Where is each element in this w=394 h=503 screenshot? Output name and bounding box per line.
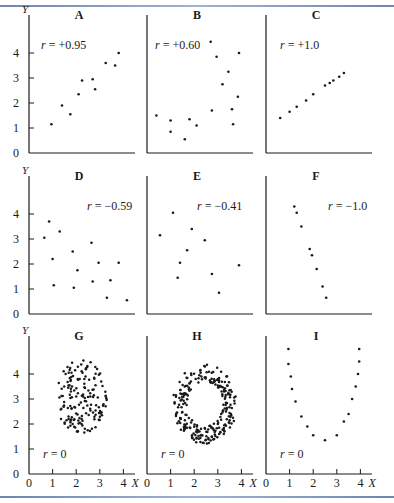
data-point	[67, 371, 70, 374]
data-point	[69, 421, 72, 424]
data-point	[82, 359, 85, 362]
data-point	[172, 394, 175, 397]
data-point	[89, 361, 92, 364]
x-tick-label: 2	[310, 476, 316, 490]
panel-title: G	[74, 329, 83, 343]
panel-title: E	[193, 169, 201, 183]
data-point	[186, 398, 189, 401]
data-point	[188, 417, 191, 420]
data-point	[185, 393, 188, 396]
y-tick-label: 2	[13, 417, 19, 431]
data-point	[222, 404, 225, 407]
data-point	[351, 398, 354, 401]
data-point	[216, 366, 219, 369]
data-point	[63, 385, 66, 388]
data-point	[75, 412, 78, 415]
data-point	[197, 429, 200, 432]
data-point	[75, 395, 78, 398]
data-point	[67, 415, 70, 418]
data-point	[213, 423, 216, 426]
data-point	[223, 407, 226, 410]
data-point	[77, 93, 80, 96]
data-point	[312, 434, 315, 437]
data-point	[218, 433, 221, 436]
data-point	[94, 426, 97, 429]
data-point	[308, 248, 311, 251]
data-point	[204, 377, 207, 380]
data-point	[357, 373, 360, 376]
data-point	[67, 384, 70, 387]
data-point	[80, 401, 83, 404]
data-point	[199, 369, 202, 372]
data-point	[213, 380, 216, 383]
data-point	[233, 399, 236, 402]
data-point	[87, 389, 90, 392]
y-tick-label: 4	[13, 367, 19, 381]
data-point	[93, 416, 96, 419]
data-point	[279, 117, 282, 120]
data-point	[100, 380, 103, 383]
data-point	[61, 104, 64, 107]
figure-caption-cutoff	[0, 499, 394, 503]
data-point	[83, 431, 86, 434]
data-point	[182, 403, 185, 406]
data-point	[102, 404, 105, 407]
data-point	[324, 439, 327, 442]
data-point	[193, 439, 196, 442]
y-tick-label: 3	[13, 71, 19, 85]
data-point	[221, 380, 224, 383]
data-point	[71, 385, 74, 388]
data-point	[178, 381, 181, 384]
data-point	[104, 395, 107, 398]
y-tick-label: 1	[13, 121, 19, 135]
data-point	[211, 273, 214, 276]
data-point	[67, 418, 70, 421]
data-point	[229, 426, 232, 429]
x-tick-label: 1	[168, 476, 174, 490]
correlation-label: r = +0.60	[155, 38, 200, 52]
data-point	[70, 407, 73, 410]
data-point	[88, 379, 91, 382]
data-point	[100, 412, 103, 415]
data-point	[91, 427, 94, 430]
data-point	[74, 406, 77, 409]
data-point	[184, 385, 187, 388]
data-point	[181, 384, 184, 387]
data-point	[358, 348, 361, 351]
data-point	[229, 404, 232, 407]
panel-g: Y0123401234XGr = 0	[13, 324, 139, 490]
data-point	[71, 416, 74, 419]
bottom-rule	[0, 496, 394, 498]
data-point	[58, 230, 61, 233]
data-point	[211, 435, 214, 438]
data-point	[68, 369, 71, 372]
data-point	[221, 411, 224, 414]
data-point	[178, 397, 181, 400]
data-point	[94, 372, 97, 375]
y-tick-label: 0	[13, 146, 19, 160]
data-point	[217, 422, 220, 425]
data-point	[224, 381, 227, 384]
data-point	[347, 413, 350, 416]
correlation-label: r = 0	[43, 447, 66, 461]
panel-title: H	[192, 329, 202, 343]
data-point	[89, 392, 92, 395]
data-point	[201, 442, 204, 445]
data-point	[224, 404, 227, 407]
data-point	[63, 401, 66, 404]
data-point	[91, 280, 94, 283]
data-point	[231, 407, 234, 410]
data-point	[220, 371, 223, 374]
data-point	[290, 375, 293, 378]
data-point	[221, 428, 224, 431]
data-point	[87, 414, 90, 417]
data-point	[195, 437, 198, 440]
x-axis-label: X	[367, 476, 376, 490]
data-point	[66, 381, 69, 384]
data-point	[295, 106, 298, 109]
data-point	[196, 424, 199, 427]
data-point	[336, 434, 339, 437]
data-point	[94, 366, 97, 369]
data-point	[84, 428, 87, 431]
data-point	[80, 370, 83, 373]
